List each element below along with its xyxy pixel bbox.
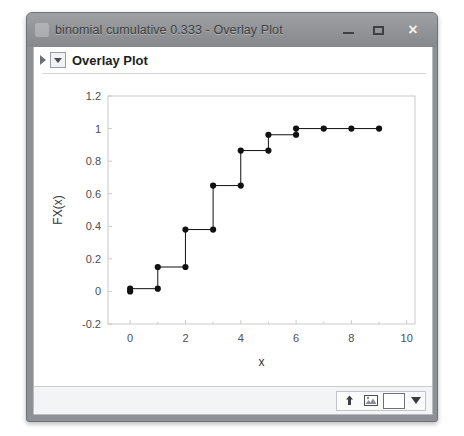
y-tick-label: 0 <box>95 285 101 297</box>
data-point <box>182 264 188 270</box>
image-icon[interactable] <box>362 393 379 409</box>
client-area: Overlay Plot -0.200.20.40.60.811.2024681… <box>33 47 433 415</box>
window-title: binomial cumulative 0.333 - Overlay Plot <box>55 23 283 37</box>
y-tick-label: 0.4 <box>86 220 101 232</box>
red-triangle-menu-icon[interactable] <box>50 52 66 68</box>
x-tick-label: 0 <box>127 332 133 344</box>
x-axis-label: x <box>259 355 265 369</box>
data-point <box>293 125 299 131</box>
maximize-icon <box>373 26 384 35</box>
minimize-icon <box>343 32 354 34</box>
y-tick-label: 0.8 <box>86 155 101 167</box>
plot-frame <box>108 96 415 324</box>
dropdown-caret-icon[interactable] <box>411 397 421 404</box>
up-arrow-icon[interactable] <box>341 393 358 409</box>
color-swatch[interactable] <box>383 393 405 409</box>
maximize-button[interactable] <box>363 19 393 41</box>
data-point <box>265 132 271 138</box>
report-header: Overlay Plot <box>34 47 432 73</box>
data-point <box>376 125 382 131</box>
plot-panel[interactable]: -0.200.20.40.60.811.20246810xFX(x) <box>42 73 426 385</box>
overlay-plot-chart: -0.200.20.40.60.811.20246810xFX(x) <box>42 74 426 384</box>
data-point <box>238 147 244 153</box>
data-point <box>155 264 161 270</box>
data-point <box>321 125 327 131</box>
x-tick-label: 4 <box>238 332 244 344</box>
status-toolbar <box>336 391 426 411</box>
data-point <box>155 286 161 292</box>
y-tick-label: 1 <box>95 123 101 135</box>
chevron-down-icon <box>54 58 62 63</box>
y-axis-label: FX(x) <box>51 195 65 224</box>
y-tick-label: 0.2 <box>86 253 101 265</box>
x-tick-label: 2 <box>182 332 188 344</box>
data-point <box>265 147 271 153</box>
minimize-button[interactable] <box>333 19 363 41</box>
data-point <box>127 286 133 292</box>
close-button[interactable]: × <box>393 17 433 43</box>
x-tick-label: 6 <box>293 332 299 344</box>
overlay-plot-window: binomial cumulative 0.333 - Overlay Plot… <box>26 12 438 422</box>
data-point <box>348 125 354 131</box>
status-bar <box>34 386 432 414</box>
y-tick-label: -0.2 <box>82 318 101 330</box>
window-controls: × <box>333 13 435 47</box>
app-icon <box>35 23 49 37</box>
y-tick-label: 1.2 <box>86 90 101 102</box>
x-tick-label: 10 <box>401 332 413 344</box>
title-bar[interactable]: binomial cumulative 0.333 - Overlay Plot… <box>27 13 437 47</box>
x-tick-label: 8 <box>348 332 354 344</box>
data-point <box>182 226 188 232</box>
page-title: Overlay Plot <box>72 53 148 68</box>
data-point <box>210 226 216 232</box>
y-tick-label: 0.6 <box>86 188 101 200</box>
disclosure-triangle-icon[interactable] <box>40 55 46 65</box>
data-point <box>238 182 244 188</box>
data-point <box>210 182 216 188</box>
data-point <box>293 132 299 138</box>
